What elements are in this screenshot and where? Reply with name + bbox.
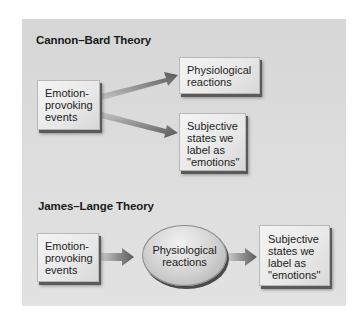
box-line: events xyxy=(45,264,92,276)
arrow-physiological-to-subjective-icon xyxy=(228,248,257,266)
james-lange-subjective-box: Subjective states we label as "emotions" xyxy=(259,225,330,286)
box-line: "emotions" xyxy=(268,269,323,281)
box-line: states we xyxy=(268,245,323,257)
cannon-bard-emotion-events-box: Emotion- provoking events xyxy=(37,80,100,130)
box-line: states we xyxy=(187,132,239,144)
box-line: provoking xyxy=(45,252,92,264)
box-line: label as xyxy=(187,144,239,156)
ellipse-text: Physiological reactions xyxy=(152,244,216,268)
box-line: Emotion- xyxy=(45,240,92,252)
cannon-bard-subjective-box: Subjective states we label as "emotions" xyxy=(179,113,246,171)
box-line: Emotion- xyxy=(45,87,93,99)
james-lange-emotion-events-box: Emotion- provoking events xyxy=(37,233,99,282)
box-line: Physiological xyxy=(187,64,253,76)
arrow-to-physiological-icon xyxy=(101,72,178,100)
box-line: Subjective xyxy=(268,233,323,245)
box-line: events xyxy=(45,111,93,123)
box-line: reactions xyxy=(187,76,253,88)
james-lange-title: James–Lange Theory xyxy=(38,200,154,212)
box-line: "emotions" xyxy=(187,156,239,168)
cannon-bard-title: Cannon–Bard Theory xyxy=(36,34,151,46)
james-lange-physiological-ellipse: Physiological reactions xyxy=(142,225,227,286)
arrow-events-to-physiological-icon xyxy=(101,248,134,266)
box-line: provoking xyxy=(45,99,93,111)
ellipse-line: reactions xyxy=(152,256,216,268)
ellipse-line: Physiological xyxy=(152,244,216,256)
cannon-bard-physiological-box: Physiological reactions xyxy=(179,57,260,94)
arrow-to-subjective-icon xyxy=(101,112,178,138)
box-line: label as xyxy=(268,257,323,269)
box-line: Subjective xyxy=(187,120,239,132)
